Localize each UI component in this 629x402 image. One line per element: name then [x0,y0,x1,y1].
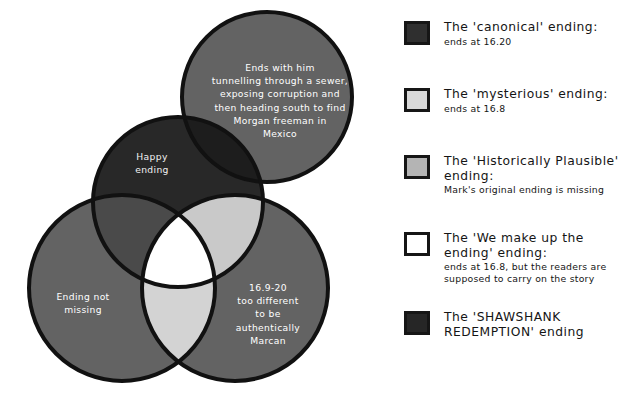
legend-swatch-historically-plausible [404,155,430,179]
legend-text-historically-plausible: The 'Historically Plausible' ending: Mar… [444,154,619,196]
venn-diagram-svg: Ends with himtunnelling through a sewer,… [0,0,392,402]
legend-title-mysterious: The 'mysterious' ending: [444,87,608,102]
legend-swatch-canonical [404,21,430,45]
venn-figure: Ends with himtunnelling through a sewer,… [0,0,629,402]
legend-item-historically-plausible[interactable]: The 'Historically Plausible' ending: Mar… [404,154,619,196]
legend-swatch-we-make-up-the-ending [404,232,430,256]
legend-subtitle-we-make-up-the-ending: ends at 16.8, but the readers are suppos… [444,261,606,285]
legend-text-shawshank-redemption: The 'SHAWSHANK REDEMPTION' ending [444,310,584,340]
legend-swatch-shawshank-redemption [404,311,430,335]
legend-item-mysterious[interactable]: The 'mysterious' ending: ends at 16.8 [404,87,608,115]
legend-title-shawshank-redemption: The 'SHAWSHANK REDEMPTION' ending [444,310,584,339]
legend-item-canonical[interactable]: The 'canonical' ending: ends at 16.20 [404,20,598,48]
legend-text-we-make-up-the-ending: The 'We make up the ending' ending: ends… [444,231,606,285]
legend-item-shawshank-redemption[interactable]: The 'SHAWSHANK REDEMPTION' ending [404,310,584,340]
legend-swatch-mysterious [404,88,430,112]
legend-text-mysterious: The 'mysterious' ending: ends at 16.8 [444,87,608,115]
legend-subtitle-mysterious: ends at 16.8 [444,103,608,115]
legend-title-historically-plausible: The 'Historically Plausible' ending: [444,154,619,183]
legend-title-we-make-up-the-ending: The 'We make up the ending' ending: [444,231,606,260]
legend-panel: The 'canonical' ending: ends at 16.20 Th… [392,0,629,402]
legend-subtitle-historically-plausible: Mark's original ending is missing [444,184,619,196]
legend-subtitle-canonical: ends at 16.20 [444,36,598,48]
legend-title-canonical: The 'canonical' ending: [444,20,598,35]
legend-text-canonical: The 'canonical' ending: ends at 16.20 [444,20,598,48]
legend-item-we-make-up-the-ending[interactable]: The 'We make up the ending' ending: ends… [404,231,606,285]
venn-diagram-panel: Ends with himtunnelling through a sewer,… [0,0,392,402]
